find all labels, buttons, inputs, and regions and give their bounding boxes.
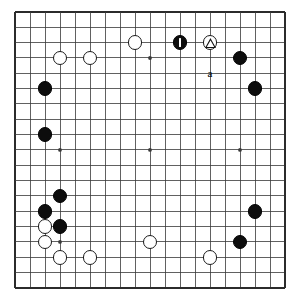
board-surface[interactable]: a <box>0 0 299 304</box>
stone-black[interactable] <box>38 204 53 219</box>
star-point <box>58 240 62 244</box>
star-point <box>148 148 152 152</box>
point-label-a: a <box>200 68 220 79</box>
go-board-diagram: a <box>0 0 299 304</box>
stone-white[interactable] <box>83 250 98 265</box>
star-point <box>58 148 62 152</box>
move-marker-icon <box>179 38 181 47</box>
star-point <box>238 148 242 152</box>
triangle-marker-icon <box>205 38 216 49</box>
star-point <box>148 56 152 60</box>
stone-white[interactable] <box>203 250 218 265</box>
stone-white[interactable] <box>53 250 68 265</box>
board-grid <box>0 0 299 304</box>
stone-black[interactable] <box>248 204 263 219</box>
